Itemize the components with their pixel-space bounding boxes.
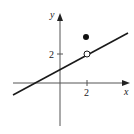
x-tick-label-2: 2	[84, 87, 89, 98]
filled-dot-point	[83, 34, 89, 40]
y-axis-label: y	[49, 9, 55, 20]
function-graph: 2 2 x y	[0, 0, 134, 134]
graph-canvas: 2 2 x y	[0, 0, 134, 134]
x-axis-label: x	[123, 86, 129, 97]
y-axis-arrow-icon	[57, 13, 63, 21]
open-circle-point	[84, 51, 90, 57]
function-line	[13, 33, 128, 95]
y-tick-label-2: 2	[49, 49, 54, 60]
